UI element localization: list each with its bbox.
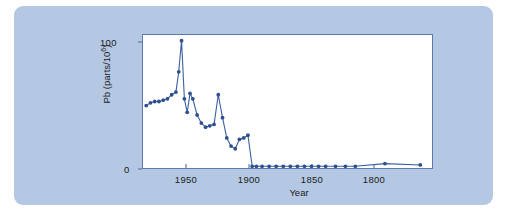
x-tick-label-1800: 1800 xyxy=(354,174,394,185)
data-point xyxy=(267,164,271,168)
x-axis-title: Year xyxy=(269,187,329,198)
data-point xyxy=(185,110,189,114)
data-point xyxy=(295,164,299,168)
data-point xyxy=(353,164,357,168)
data-point xyxy=(153,100,157,104)
x-tick-label-1900: 1900 xyxy=(229,174,269,185)
data-point xyxy=(383,162,387,166)
data-point xyxy=(157,100,161,104)
data-point xyxy=(161,98,165,102)
data-point xyxy=(303,164,307,168)
data-point xyxy=(166,97,170,101)
data-point xyxy=(324,164,328,168)
data-point xyxy=(229,144,233,148)
data-point xyxy=(310,164,314,168)
data-point xyxy=(221,116,225,120)
data-point xyxy=(334,164,338,168)
data-point xyxy=(344,164,348,168)
y-axis-title-prefix: Pb (parts/10 xyxy=(101,52,112,104)
data-point xyxy=(177,70,181,74)
data-point xyxy=(182,97,186,101)
data-series-lead xyxy=(144,39,422,168)
data-point xyxy=(242,136,246,140)
data-point xyxy=(191,97,195,101)
y-tick-label-0: 0 xyxy=(124,164,130,175)
data-point xyxy=(225,136,229,140)
data-point xyxy=(212,123,216,127)
data-point xyxy=(170,93,174,97)
data-point xyxy=(255,164,259,168)
data-point xyxy=(174,90,178,94)
figure-panel: 100 0 1950 1900 1850 1800 Year Pb (parts… xyxy=(14,6,493,205)
data-point xyxy=(216,93,220,97)
data-point xyxy=(208,124,212,128)
x-tick-label-1950: 1950 xyxy=(166,174,206,185)
y-axis-title: Pb (parts/106) xyxy=(100,32,112,116)
data-markers xyxy=(144,39,422,168)
data-point xyxy=(288,164,292,168)
data-point xyxy=(317,164,321,168)
data-point xyxy=(260,164,264,168)
data-point xyxy=(188,92,192,96)
data-point xyxy=(144,104,148,108)
tick-marks xyxy=(138,42,374,169)
data-point xyxy=(199,121,203,125)
data-point xyxy=(180,39,184,43)
data-point xyxy=(238,137,242,141)
y-axis-title-exponent: 6 xyxy=(100,48,107,52)
data-point xyxy=(246,133,250,137)
data-point xyxy=(250,164,254,168)
data-point xyxy=(149,101,153,105)
data-point xyxy=(195,113,199,117)
data-line xyxy=(146,41,420,167)
y-axis-title-suffix: ) xyxy=(101,45,112,48)
data-point xyxy=(418,163,422,167)
data-point xyxy=(274,164,278,168)
x-tick-label-1850: 1850 xyxy=(292,174,332,185)
data-point xyxy=(204,125,208,129)
data-point xyxy=(281,164,285,168)
data-point xyxy=(233,147,237,151)
